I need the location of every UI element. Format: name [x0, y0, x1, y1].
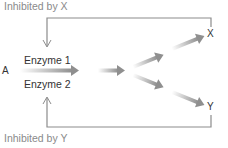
- arrow-a-to-intermediate: [20, 65, 79, 76]
- arrow-to-x: [170, 31, 207, 54]
- inhibited-by-x-label: Inhibited by X: [4, 1, 68, 12]
- pathway-diagram: [0, 0, 228, 148]
- arrow-to-y: [170, 87, 207, 110]
- enzyme-1-label: Enzyme 1: [24, 55, 71, 66]
- arrow-branch-down-1: [131, 70, 166, 93]
- enzyme-2-label: Enzyme 2: [24, 79, 71, 90]
- substrate-a-label: A: [2, 66, 9, 76]
- arrow-branch-up-1: [131, 50, 166, 73]
- inhibition-line-y: [43, 97, 211, 127]
- product-y-label: Y: [207, 102, 214, 112]
- product-x-label: X: [207, 29, 214, 39]
- inhibited-by-y-label: Inhibited by Y: [4, 133, 67, 144]
- arrow-intermediate-to-branch: [98, 65, 125, 76]
